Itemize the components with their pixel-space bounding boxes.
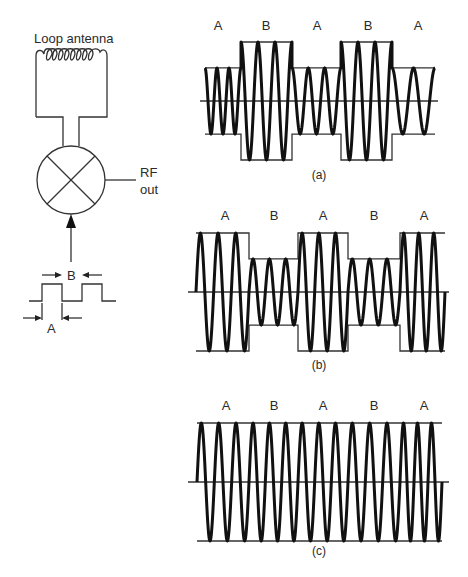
segment-label: B: [370, 208, 379, 223]
rf-label: RF: [140, 165, 157, 180]
waveform-panel-b: [188, 233, 449, 351]
dimension-a-icon: [23, 303, 82, 321]
panel-caption: (a): [312, 168, 327, 182]
waveform-panel-a: [200, 42, 438, 160]
panel-caption: (c): [312, 544, 326, 558]
waveform-panel-c: [188, 423, 449, 541]
figure-canvas: Loop antenna RF out B: [0, 0, 468, 577]
out-label: out: [140, 182, 158, 197]
pulse-b-label: B: [67, 268, 76, 283]
antenna-label: Loop antenna: [34, 31, 114, 46]
segment-label: A: [420, 208, 429, 223]
segment-label: A: [313, 18, 322, 33]
segment-label: A: [414, 18, 423, 33]
circuit-diagram: Loop antenna RF out B: [23, 31, 158, 336]
segment-label: B: [270, 398, 279, 413]
segment-label: A: [221, 208, 230, 223]
segment-label: A: [319, 398, 328, 413]
segment-label: B: [270, 208, 279, 223]
loop-antenna-icon: [36, 49, 107, 146]
arrow-up-icon: [66, 214, 76, 262]
segment-label: A: [214, 18, 223, 33]
segment-label: B: [370, 398, 379, 413]
segment-label: B: [262, 18, 271, 33]
segment-label: A: [319, 208, 328, 223]
pulse-train-icon: [29, 284, 116, 301]
envelope-lower: [205, 134, 435, 160]
segment-label: A: [222, 398, 231, 413]
segment-label: B: [364, 18, 373, 33]
mixer-icon: [37, 146, 105, 214]
panel-caption: (b): [312, 358, 327, 372]
segment-label: A: [420, 398, 429, 413]
pulse-a-label: A: [47, 321, 56, 336]
